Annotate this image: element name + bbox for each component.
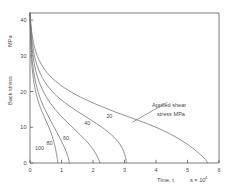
x-tick-label-0: 0	[28, 167, 31, 173]
curve-label-20: 20	[106, 113, 112, 119]
curve-label-40: 40	[84, 120, 90, 126]
chart-figure: 0123456010203040 10080604020 Applied she…	[0, 0, 240, 191]
curve-label-100: 100	[35, 145, 44, 151]
y-tick-label-0: 0	[23, 160, 26, 166]
x-tick-label-6: 6	[217, 167, 220, 173]
x-tick-label-2: 2	[91, 167, 94, 173]
y-axis-title: Back stress	[7, 76, 13, 105]
x-tick-label-5: 5	[186, 167, 189, 173]
x-tick-label-1: 1	[60, 167, 63, 173]
y-axis-units: MPa	[7, 35, 13, 47]
x-tick-label-3: 3	[123, 167, 126, 173]
y-tick-label-20: 20	[20, 89, 26, 95]
back-stress-decay-chart: 0123456010203040 10080604020 Applied she…	[0, 0, 240, 191]
chart-background	[0, 0, 240, 191]
annotation-line-1: Applied shear	[152, 102, 186, 108]
x-axis-title: Time, t	[157, 177, 174, 183]
y-tick-label-10: 10	[20, 124, 26, 130]
y-tick-label-30: 30	[20, 53, 26, 59]
x-tick-label-4: 4	[154, 167, 157, 173]
curve-label-60: 60	[63, 135, 69, 141]
curve-label-80: 80	[47, 140, 53, 146]
x-axis-units: s × 10	[190, 177, 205, 183]
y-tick-label-40: 40	[20, 17, 26, 23]
annotation-line-2: stress MPa	[157, 111, 186, 117]
